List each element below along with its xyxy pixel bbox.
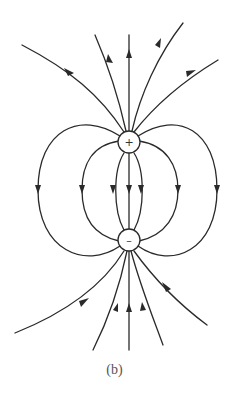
negative-sign: – (126, 234, 132, 247)
positive-sign: + (124, 136, 133, 149)
positive-charge: + (118, 131, 140, 153)
dipole-field-diagram: + – (0, 0, 229, 393)
incoming-field-lines (15, 251, 207, 350)
outgoing-field-lines (22, 23, 218, 132)
figure-caption: (b) (0, 362, 229, 378)
negative-charge: – (118, 229, 140, 251)
